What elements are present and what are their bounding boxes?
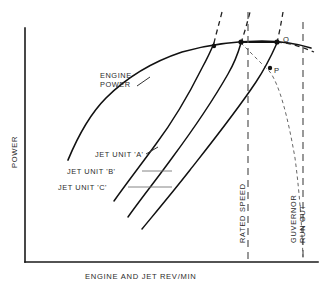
governor-run-out-label-group: GUVERNOR RUN OUT bbox=[289, 194, 307, 243]
dot-jet-a-intersection bbox=[212, 44, 216, 48]
jet-unit-c-label: JET UNIT 'C' bbox=[58, 183, 107, 192]
point-p-label: P bbox=[274, 66, 279, 75]
governor-run-out-label-line1: GUVERNOR bbox=[289, 194, 298, 243]
dot-rated-speed-intersection bbox=[238, 39, 243, 44]
engine-power-label-line2: POWER bbox=[100, 80, 131, 89]
axes bbox=[25, 28, 318, 262]
engine-power-path bbox=[68, 41, 311, 160]
governor-run-out-label-line2: RUN OUT bbox=[298, 204, 307, 243]
jet-unit-a-path bbox=[114, 43, 214, 201]
dot-point-q bbox=[274, 39, 279, 44]
jet-unit-a-curve bbox=[114, 12, 222, 201]
dot-point-p bbox=[268, 66, 272, 70]
engine-jet-power-chart: ENGINE POWER JET UNIT 'A' JET UNIT 'B' J… bbox=[0, 0, 325, 294]
jet-unit-a-label: JET UNIT 'A' bbox=[95, 150, 144, 159]
rated-speed-label-group: RATED SPEED bbox=[238, 183, 247, 243]
point-q-label: Q bbox=[283, 35, 289, 44]
engine-power-curve bbox=[68, 41, 311, 160]
jet-unit-a-dashed-extension bbox=[214, 12, 222, 43]
x-axis-label: ENGINE AND JET REV/MIN bbox=[85, 272, 196, 281]
leader-engine-power bbox=[137, 77, 150, 86]
jet-unit-b-label: JET UNIT 'B' bbox=[67, 167, 116, 176]
rated-speed-label: RATED SPEED bbox=[238, 183, 247, 243]
y-axis-label: POWER bbox=[10, 136, 19, 168]
engine-power-label-line1: ENGINE bbox=[100, 71, 132, 80]
jet-unit-b-dashed-extension bbox=[241, 12, 250, 43]
leader-jet-unit-a bbox=[146, 147, 158, 154]
y-axis-label-group: POWER bbox=[10, 136, 19, 168]
